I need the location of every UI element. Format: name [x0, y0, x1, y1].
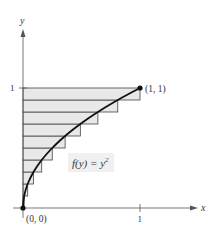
- x-tick-label: 1: [138, 214, 143, 224]
- rectangle: [23, 100, 118, 112]
- x-axis-label: x: [200, 202, 206, 213]
- endpoint-label: (1, 1): [145, 84, 166, 95]
- rectangle: [23, 112, 98, 124]
- endpoint-point: [137, 85, 142, 90]
- y-tick-label: 1: [10, 83, 15, 93]
- origin-point: [20, 205, 25, 210]
- function-label: f(y) = y2: [72, 156, 109, 170]
- riemann-sum-figure: f(y) = y2 x y 1 1 (0, 0) (1, 1): [0, 0, 216, 229]
- origin-label: (0, 0): [26, 214, 47, 225]
- rectangle: [23, 160, 42, 172]
- horizontal-rectangles: [23, 88, 140, 208]
- y-axis-label: y: [19, 15, 25, 26]
- y-axis-arrow-icon: [21, 29, 26, 37]
- x-axis-arrow-icon: [190, 206, 198, 211]
